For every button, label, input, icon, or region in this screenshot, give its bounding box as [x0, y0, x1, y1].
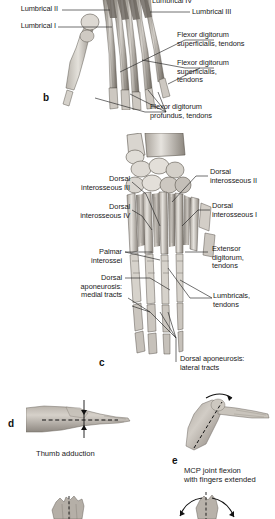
label-fdp-tendons: Flexor digitorum profundus, tendons	[150, 103, 212, 120]
label-fds-tendons-lower: Flexor digitorum superficialis, tendons	[177, 59, 229, 85]
label-dorsal-aponeurosis-lateral: Dorsal aponeurosis: lateral tracts	[180, 355, 244, 372]
panel-e-photo	[180, 392, 275, 452]
label-lumbrical-iv: Lumbrical IV	[152, 0, 192, 6]
label-fds-tendons-upper: Flexor digitorum superficialis, tendons	[177, 31, 244, 48]
label-lumbrical-ii: Lumbrical II	[0, 5, 58, 14]
panel-f-partial-photo	[48, 496, 98, 519]
caption-panel-e: MCP joint flexion with fingers extended	[184, 466, 256, 484]
label-extensor-digitorum-tendons: Extensor digitorum, tendons	[212, 245, 244, 271]
label-dorsal-aponeurosis-medial: Dorsal aponeurosis: medial tracts	[26, 274, 122, 300]
panel-letter-e: e	[172, 455, 178, 466]
label-dorsal-interosseous-iv: Dorsal interosseous IV	[28, 203, 130, 220]
label-dorsal-interosseous-i: Dorsal interosseous I	[212, 202, 257, 219]
panel-b-leaders	[0, 0, 275, 130]
panel-d-photo	[26, 398, 136, 443]
label-lumbrical-iii: Lumbrical III	[192, 8, 231, 17]
panel-letter-d: d	[8, 418, 14, 429]
panel-letter-b: b	[43, 92, 49, 103]
panel-letter-c: c	[99, 357, 105, 368]
figure-page: Lumbrical IV Lumbrical III Lumbrical II …	[0, 0, 275, 519]
caption-panel-d: Thumb adduction	[36, 449, 95, 458]
label-lumbrical-i: Lumbrical I	[0, 22, 56, 31]
panel-g-partial-photo	[168, 492, 240, 519]
label-lumbricals-tendons: Lumbricals, tendons	[213, 292, 250, 309]
label-dorsal-interosseous-ii: Dorsal interosseous II	[210, 168, 257, 185]
label-palmar-interossei: Palmar interossei	[38, 248, 122, 265]
label-dorsal-interosseous-iii: Dorsal interosseous III	[28, 175, 130, 192]
